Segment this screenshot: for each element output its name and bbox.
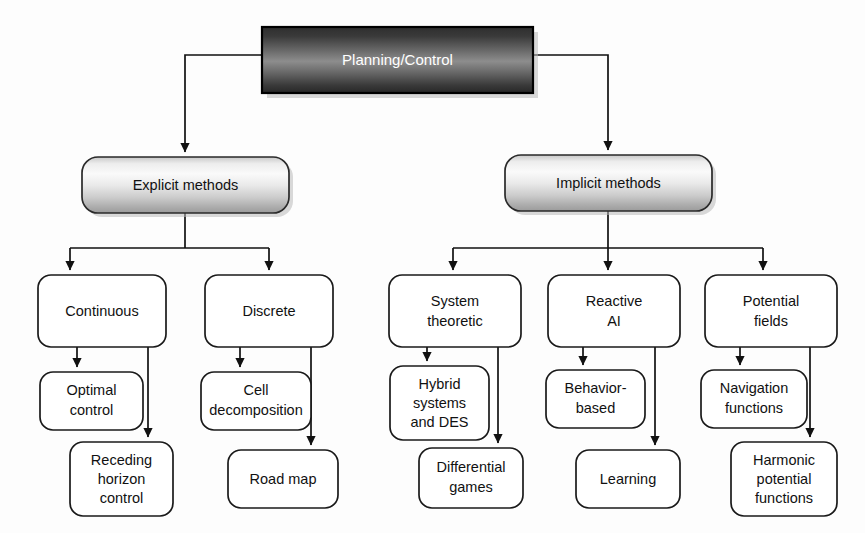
- node-reactive-ai-label-line2: AI: [607, 313, 621, 329]
- node-cell-decomposition-label-line1: Cell: [244, 382, 269, 398]
- node-differential-games-label-line2: games: [449, 479, 493, 495]
- node-harmonic-potential-functions[interactable]: Harmonic potential functions: [731, 442, 837, 516]
- node-reactive-ai-label-line1: Reactive: [586, 293, 642, 309]
- node-hybrid-systems-and-des-label-line2: systems: [413, 395, 466, 411]
- node-explicit-methods-label: Explicit methods: [133, 177, 239, 193]
- node-road-map-label: Road map: [250, 471, 317, 487]
- node-continuous-label: Continuous: [65, 303, 138, 319]
- node-potential-fields-label-line1: Potential: [743, 293, 799, 309]
- node-differential-games[interactable]: Differential games: [419, 448, 523, 508]
- node-continuous[interactable]: Continuous: [38, 275, 166, 347]
- node-system-theoretic[interactable]: System theoretic: [389, 275, 521, 347]
- node-potential-fields[interactable]: Potential fields: [705, 275, 837, 347]
- node-differential-games-label-line1: Differential: [436, 459, 505, 475]
- node-planning-control-label: Planning/Control: [342, 51, 453, 68]
- node-reactive-ai-box[interactable]: [548, 275, 680, 347]
- node-road-map[interactable]: Road map: [228, 450, 338, 508]
- node-harmonic-potential-functions-label-line1: Harmonic: [753, 452, 815, 468]
- connector-root-to-explicit: [185, 55, 262, 152]
- node-reactive-ai[interactable]: Reactive AI: [548, 275, 680, 347]
- node-behavior-based[interactable]: Behavior- based: [546, 370, 645, 428]
- node-receding-horizon-control-label-line3: control: [100, 490, 144, 506]
- node-behavior-based-label-line2: based: [576, 400, 616, 416]
- node-receding-horizon-control-label-line2: horizon: [98, 471, 146, 487]
- node-explicit-methods[interactable]: Explicit methods: [82, 157, 293, 217]
- node-potential-fields-label-line2: fields: [754, 313, 788, 329]
- node-harmonic-potential-functions-label-line3: functions: [755, 490, 813, 506]
- node-optimal-control-label-line2: control: [70, 402, 114, 418]
- node-behavior-based-label-line1: Behavior-: [564, 380, 626, 396]
- node-system-theoretic-label-line2: theoretic: [427, 313, 483, 329]
- node-receding-horizon-control[interactable]: Receding horizon control: [70, 442, 173, 516]
- node-implicit-methods[interactable]: Implicit methods: [505, 155, 716, 215]
- node-hybrid-systems-and-des-label-line1: Hybrid: [419, 376, 461, 392]
- node-navigation-functions-label-line2: functions: [725, 400, 783, 416]
- taxonomy-diagram: Planning/Control Explicit methods Implic…: [0, 0, 865, 533]
- node-system-theoretic-box[interactable]: [389, 275, 521, 347]
- node-learning[interactable]: Learning: [576, 450, 680, 508]
- node-discrete[interactable]: Discrete: [205, 275, 333, 347]
- node-planning-control[interactable]: Planning/Control: [262, 27, 538, 98]
- node-learning-label: Learning: [600, 471, 656, 487]
- node-hybrid-systems-and-des-label-line3: and DES: [410, 414, 468, 430]
- node-harmonic-potential-functions-label-line2: potential: [757, 471, 812, 487]
- node-discrete-label: Discrete: [242, 303, 295, 319]
- node-navigation-functions-label-line1: Navigation: [720, 380, 789, 396]
- node-optimal-control[interactable]: Optimal control: [40, 372, 143, 430]
- node-system-theoretic-label-line1: System: [431, 293, 479, 309]
- node-hybrid-systems-and-des[interactable]: Hybrid systems and DES: [390, 366, 489, 440]
- node-cell-decomposition[interactable]: Cell decomposition: [201, 372, 311, 430]
- node-receding-horizon-control-label-line1: Receding: [91, 452, 152, 468]
- node-implicit-methods-label: Implicit methods: [556, 175, 661, 191]
- node-optimal-control-label-line1: Optimal: [67, 382, 117, 398]
- node-potential-fields-box[interactable]: [705, 275, 837, 347]
- node-navigation-functions[interactable]: Navigation functions: [701, 370, 807, 428]
- node-cell-decomposition-label-line2: decomposition: [209, 402, 303, 418]
- diagram-canvas-container: Planning/Control Explicit methods Implic…: [0, 0, 865, 533]
- connector-root-to-implicit: [533, 55, 608, 150]
